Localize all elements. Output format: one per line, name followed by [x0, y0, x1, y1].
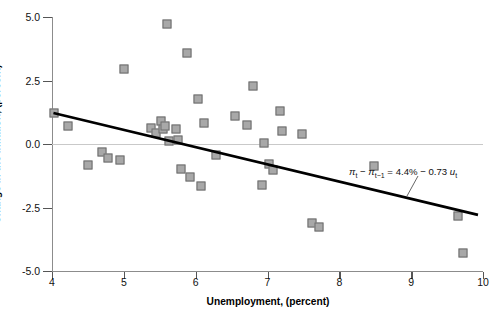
x-tick-label: 9 — [408, 276, 414, 288]
scatter-point — [116, 155, 125, 164]
scatter-point — [269, 165, 278, 174]
scatter-point — [458, 248, 467, 257]
scatter-point — [211, 150, 220, 159]
scatter-point — [162, 20, 171, 29]
scatter-point — [161, 122, 170, 131]
scatter-point — [50, 109, 59, 118]
x-tick-label: 5 — [121, 276, 127, 288]
y-tick-mark — [43, 208, 52, 209]
scatter-point — [193, 94, 202, 103]
scatter-point — [63, 122, 72, 131]
scatter-point — [243, 120, 252, 129]
scatter-point — [185, 172, 194, 181]
scatter-point — [171, 124, 180, 133]
y-tick-mark — [43, 17, 52, 18]
regression-equation-annotation: πt − πt−1 = 4.4% − 0.73 ut — [349, 166, 457, 179]
scatter-point — [259, 139, 268, 148]
x-tick-label: 8 — [336, 276, 342, 288]
y-tick-mark — [43, 271, 52, 272]
x-tick-label: 7 — [265, 276, 271, 288]
scatter-point — [257, 180, 266, 189]
scatter-point — [249, 81, 258, 90]
scatter-point — [453, 212, 462, 221]
pi-subscript-2: t−1 — [375, 172, 385, 179]
equation-right-side: = 4.4% − 0.73 — [385, 166, 450, 177]
u-subscript: t — [455, 172, 457, 179]
x-axis-title: Unemployment, (percent) — [207, 296, 330, 307]
scatter-point — [83, 160, 92, 169]
scatter-point — [315, 223, 324, 232]
y-tick-label: 5.0 — [25, 11, 40, 23]
y-tick-mark — [43, 81, 52, 82]
scatter-point — [119, 64, 128, 73]
scatter-point — [197, 181, 206, 190]
y-tick-label: -2.5 — [22, 202, 40, 214]
x-tick-label: 6 — [193, 276, 199, 288]
y-axis-title: Change in the inflation, (percent) — [0, 64, 2, 223]
y-tick-label: 0.0 — [25, 138, 40, 150]
phillips-curve-scatter-chart: Change in the inflation, (percent) 5.02.… — [0, 0, 497, 321]
y-tick-mark — [43, 144, 52, 145]
scatter-point — [231, 112, 240, 121]
y-tick-label: -5.0 — [22, 265, 40, 277]
scatter-point — [183, 49, 192, 58]
scatter-point — [104, 153, 113, 162]
scatter-point — [276, 107, 285, 116]
x-tick-label: 10 — [477, 276, 489, 288]
y-tick-label: 2.5 — [25, 75, 40, 87]
scatter-point — [165, 137, 174, 146]
scatter-point — [200, 119, 209, 128]
x-tick-label: 4 — [49, 276, 55, 288]
scatter-point — [174, 135, 183, 144]
scatter-point — [277, 126, 286, 135]
regression-line — [0, 0, 497, 321]
minus-operator-1: − — [357, 166, 368, 177]
scatter-point — [297, 130, 306, 139]
